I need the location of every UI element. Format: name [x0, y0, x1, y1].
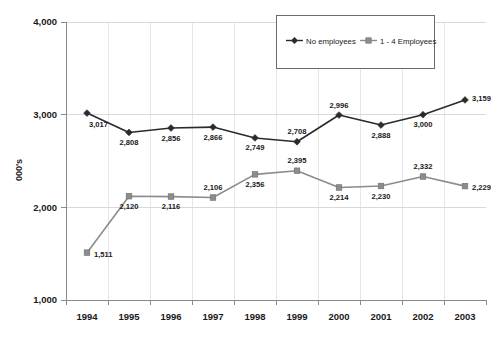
x-axis-tick-label: 1998: [244, 311, 265, 322]
data-point-label: 2,395: [287, 156, 307, 165]
data-point-marker-square: [378, 183, 384, 189]
x-axis-tick-label: 1996: [160, 311, 181, 322]
chart-container: 1,0002,0003,0004,000 1994199519961997199…: [0, 0, 498, 341]
x-axis-tick-label: 1994: [76, 311, 98, 322]
legend-marker-square: [366, 38, 371, 43]
data-point-label: 2,106: [203, 183, 222, 192]
data-point-label: 2,866: [203, 133, 222, 142]
data-point-label: 2,120: [119, 202, 138, 211]
data-point-marker-square: [294, 168, 300, 174]
data-point-marker-square: [84, 250, 90, 256]
data-point-label: 3,159: [472, 94, 491, 103]
data-point-label: 2,808: [119, 138, 138, 147]
x-axis-tick-label: 2001: [370, 311, 392, 322]
data-point-marker-square: [336, 185, 342, 191]
data-point-label: 3,000: [413, 120, 432, 129]
chart-legend: No employees1 - 4 Employees: [276, 15, 436, 68]
x-axis-tick-labels: 1994199519961997199819992000200120022003: [76, 311, 475, 322]
x-axis-tick-label: 1999: [286, 311, 307, 322]
legend-item-label: No employees: [306, 37, 356, 46]
data-point-label: 2,356: [245, 180, 264, 189]
y-axis-title: 000's: [14, 159, 24, 181]
data-point-marker-square: [252, 172, 258, 178]
x-axis-tick-label: 2003: [454, 311, 475, 322]
data-point-label: 2,230: [371, 192, 390, 201]
data-point-label: 2,749: [245, 143, 264, 152]
y-axis-ticks: [61, 22, 66, 300]
x-axis-ticks: [66, 300, 486, 305]
line-chart: 1,0002,0003,0004,000 1994199519961997199…: [0, 0, 498, 341]
data-point-label: 2,708: [287, 127, 306, 136]
data-point-label: 2,116: [162, 202, 181, 211]
data-point-label: 3,017: [89, 120, 108, 129]
data-point-marker-square: [210, 195, 216, 201]
legend-item-label: 1 - 4 Employees: [380, 37, 436, 46]
y-axis-tick-labels: 1,0002,0003,0004,000: [33, 16, 57, 305]
x-axis-tick-label: 2002: [412, 311, 433, 322]
x-axis-tick-label: 1997: [202, 311, 223, 322]
data-point-label: 2,229: [472, 183, 491, 192]
y-axis-tick-label: 2,000: [33, 202, 57, 213]
y-axis-tick-label: 4,000: [33, 16, 57, 27]
data-point-label: 2,888: [371, 131, 390, 140]
data-point-marker-square: [168, 194, 174, 200]
data-point-label: 2,856: [161, 134, 180, 143]
data-point-label: 1,511: [94, 250, 113, 259]
x-axis-tick-label: 1995: [118, 311, 140, 322]
data-point-marker-square: [420, 174, 426, 180]
data-point-label: 2,332: [413, 162, 432, 171]
data-point-label: 2,214: [329, 193, 349, 202]
y-axis-tick-label: 1,000: [33, 294, 57, 305]
data-point-marker-square: [126, 193, 132, 199]
y-axis-tick-label: 3,000: [33, 109, 57, 120]
data-point-marker-square: [462, 183, 468, 189]
x-axis-tick-label: 2000: [328, 311, 349, 322]
data-point-label: 2,996: [329, 101, 348, 110]
